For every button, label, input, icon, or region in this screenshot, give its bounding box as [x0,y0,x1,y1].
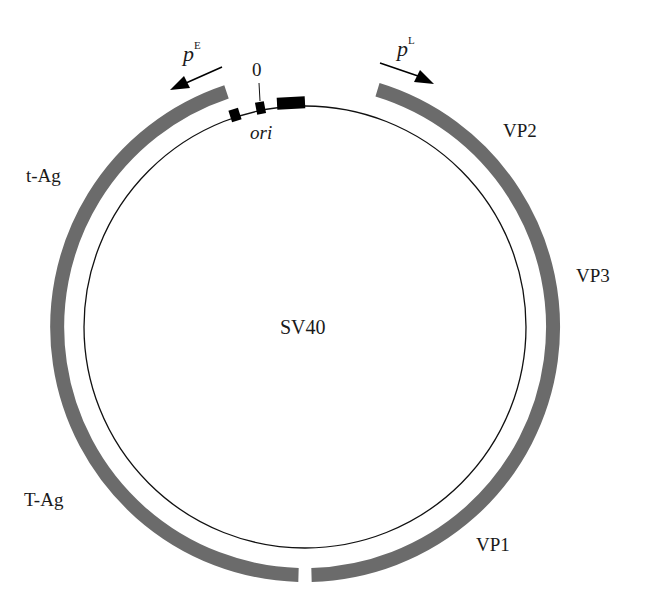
vp2-label: VP2 [503,120,537,142]
sv40-plasmid-map: SV40 t-Ag T-Ag VP2 VP3 VP1 ori 0 pE pL [0,0,647,602]
vp1-label: VP1 [476,534,510,556]
t-ag-label: t-Ag [26,165,61,187]
pL-base: p [397,36,408,61]
pE-base: p [183,41,194,66]
pE-sup: E [194,39,201,51]
T-ag-label: T-Ag [24,489,63,511]
ori-label: ori [250,122,272,144]
vp3-label: VP3 [576,265,610,287]
pL-label: pL [397,36,415,62]
zero-label: 0 [252,59,262,81]
pE-label: pE [183,41,201,67]
late-region-band [312,90,554,575]
pL-arrow-icon [380,63,434,84]
center-label: SV40 [280,316,326,339]
zero-marker-line [259,83,260,101]
plasmid-svg [0,0,647,602]
pE-arrow-icon [170,67,222,90]
early-region-band [57,92,298,575]
pL-sup: L [408,34,415,46]
